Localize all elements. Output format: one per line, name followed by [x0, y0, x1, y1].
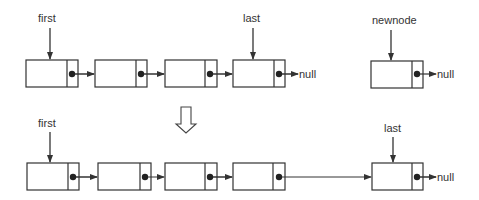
pointer-last: last	[243, 12, 260, 59]
linked-list-append-diagram: first last newnode	[0, 0, 479, 200]
pointer-first: first	[38, 12, 56, 59]
top-row: first last newnode	[26, 12, 454, 88]
list-node	[95, 60, 164, 87]
pointer-dot	[207, 71, 213, 77]
list-node	[165, 60, 232, 87]
pointer-dot	[276, 174, 282, 180]
list-node	[233, 163, 371, 190]
pointer-label-newnode: newnode	[372, 14, 417, 26]
list-node	[27, 163, 97, 190]
pointer-dot	[414, 174, 420, 180]
pointer-dot	[69, 71, 75, 77]
list-node	[98, 163, 164, 190]
pointer-newnode: newnode	[372, 14, 417, 60]
hollow-down-arrow-icon	[176, 107, 196, 133]
null-label: null	[437, 171, 454, 183]
pointer-label-first: first	[38, 12, 56, 24]
pointer-label-first: first	[38, 117, 56, 129]
pointer-dot	[276, 71, 282, 77]
pointer-dot	[207, 174, 213, 180]
list-node-last: null	[372, 163, 454, 190]
bottom-row: first last	[27, 117, 454, 190]
pointer-first: first	[38, 117, 56, 162]
list-node	[165, 163, 232, 190]
pointer-label-last: last	[384, 122, 401, 134]
pointer-dot	[142, 174, 148, 180]
list-node	[26, 60, 94, 87]
null-label: null	[299, 68, 316, 80]
pointer-dot	[138, 71, 144, 77]
pointer-dot	[414, 71, 420, 77]
pointer-last: last	[384, 122, 401, 162]
pointer-dot	[70, 174, 76, 180]
null-label: null	[437, 68, 454, 80]
pointer-label-last: last	[243, 12, 260, 24]
list-node-newnode: null	[371, 61, 454, 88]
list-node-last: null	[233, 60, 316, 87]
